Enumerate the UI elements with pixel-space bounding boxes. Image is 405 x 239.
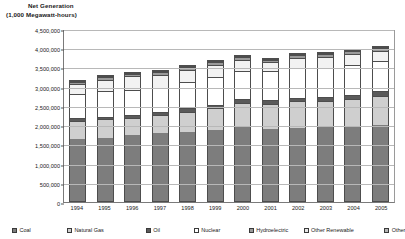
legend-label: Oil [153, 227, 160, 233]
x-axis-tick-label: 1995 [91, 205, 119, 217]
grid-line [64, 184, 394, 185]
bar-segment-natural-gas [263, 104, 278, 128]
legend-swatch-icon [146, 228, 151, 233]
bar-segment-natural-gas [318, 101, 333, 126]
y-axis-tick-label: 1,500,000 [35, 143, 64, 149]
legend-item-other[interactable]: Other [384, 227, 405, 233]
bar-segment-hydroelectric [345, 54, 360, 64]
bar-segment-natural-gas [373, 96, 388, 125]
legend-item-hydroelectric[interactable]: Hydroelectric [249, 227, 289, 233]
grid-line [64, 30, 394, 31]
y-axis-tick-mark [61, 165, 64, 166]
bar-column [202, 31, 230, 202]
y-axis-tick-mark [61, 146, 64, 147]
bar-segment-natural-gas [153, 115, 168, 133]
bar-segment-hydroelectric [208, 65, 223, 77]
x-axis-tick-label: 1994 [63, 205, 91, 217]
stacked-bar [289, 53, 306, 202]
bar-segment-nuclear [70, 94, 85, 118]
chart-legend: CoalNatural GasOilNuclearHydroelectricOt… [0, 224, 403, 236]
bar-column [229, 31, 257, 202]
stacked-bar [317, 52, 334, 202]
chart-subtitle: (1,000 Megawatt-hours) [6, 11, 77, 20]
x-axis-tick-label: 2000 [229, 205, 257, 217]
legend-swatch-icon [12, 228, 17, 233]
bar-column [367, 31, 395, 202]
stacked-bar [262, 58, 279, 202]
legend-swatch-icon [249, 228, 254, 233]
bar-segment-natural-gas [70, 121, 85, 138]
x-axis-tick-label: 2005 [367, 205, 395, 217]
y-axis-tick-label: 3,000,000 [35, 86, 64, 92]
chart-title-block: Net Generation (1,000 Megawatt-hours) [6, 2, 77, 19]
x-axis-tick-label: 2003 [312, 205, 340, 217]
y-axis-tick-label: 3,500,000 [35, 66, 64, 72]
y-axis-tick-mark [61, 50, 64, 51]
bar-segment-natural-gas [345, 99, 360, 126]
legend-item-coal[interactable]: Coal [12, 227, 31, 233]
y-axis-tick-label: 2,000,000 [35, 124, 64, 130]
bar-segment-natural-gas [290, 101, 305, 127]
stacked-bar [152, 70, 169, 202]
grid-line [64, 68, 394, 69]
x-axis-tick-label: 2004 [340, 205, 368, 217]
bar-segment-hydroelectric [153, 75, 168, 89]
x-axis-tick-label: 1996 [118, 205, 146, 217]
x-axis-tick-label: 1998 [174, 205, 202, 217]
bar-group [64, 31, 394, 202]
y-axis-tick-mark [61, 127, 64, 128]
legend-label: Natural Gas [74, 227, 103, 233]
bar-segment-hydroelectric [70, 84, 85, 93]
bar-column [147, 31, 175, 202]
x-axis-tick-label: 1999 [201, 205, 229, 217]
legend-item-oil[interactable]: Oil [146, 227, 160, 233]
grid-line [64, 88, 394, 89]
plot-area: 0500,0001,000,0001,500,0002,000,0002,500… [63, 30, 395, 203]
stacked-bar [234, 55, 251, 202]
bar-segment-hydroelectric [318, 57, 333, 67]
legend-item-natural-gas[interactable]: Natural Gas [67, 227, 104, 233]
y-axis-tick-mark [61, 107, 64, 108]
legend-label: Hydroelectric [256, 227, 288, 233]
legend-item-other-renewable[interactable]: Other Renewable [304, 227, 354, 233]
legend-swatch-icon [194, 228, 199, 233]
bar-segment-nuclear [235, 71, 250, 100]
chart-title: Net Generation [6, 2, 77, 11]
grid-line [64, 145, 394, 146]
bar-column [174, 31, 202, 202]
bar-column [119, 31, 147, 202]
bar-segment-nuclear [125, 90, 140, 116]
bar-segment-coal [70, 139, 85, 201]
legend-label: Coal [20, 227, 31, 233]
stacked-bar [179, 65, 196, 202]
grid-line [64, 126, 394, 127]
bar-segment-coal [345, 126, 360, 201]
stacked-bar [207, 60, 224, 202]
bar-segment-nuclear [373, 61, 388, 91]
bar-segment-nuclear [98, 91, 113, 117]
y-axis-tick-mark [61, 184, 64, 185]
bar-segment-nuclear [290, 68, 305, 98]
grid-line [64, 107, 394, 108]
bar-column [312, 31, 340, 202]
legend-item-nuclear[interactable]: Nuclear [194, 227, 220, 233]
legend-swatch-icon [304, 228, 309, 233]
bar-segment-hydroelectric [373, 51, 388, 61]
y-axis-tick-label: 4,000,000 [35, 47, 64, 53]
bar-segment-coal [373, 125, 388, 201]
grid-line [64, 49, 394, 50]
bar-column [257, 31, 285, 202]
bar-column [284, 31, 312, 202]
bar-segment-nuclear [180, 82, 195, 108]
legend-swatch-icon [67, 228, 72, 233]
bar-column [64, 31, 92, 202]
stacked-bar [124, 72, 141, 203]
bar-segment-nuclear [153, 88, 168, 112]
x-axis-tick-label: 2002 [284, 205, 312, 217]
bar-segment-hydroelectric [180, 70, 195, 82]
bar-segment-nuclear [208, 77, 223, 105]
bar-segment-nuclear [263, 71, 278, 100]
y-axis-tick-label: 1,000,000 [35, 163, 64, 169]
bar-segment-hydroelectric [98, 80, 113, 91]
